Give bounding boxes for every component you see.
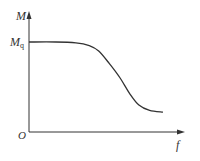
origin-label: O	[18, 130, 26, 141]
y-axis	[27, 11, 32, 132]
y-axis-label: M	[16, 10, 26, 22]
torque-frequency-curve	[29, 42, 163, 112]
mq-tick-label-sub: q	[20, 41, 24, 50]
x-axis	[29, 130, 185, 135]
y-axis-arrow-icon	[27, 11, 32, 19]
mq-tick-label-main: M	[10, 35, 20, 49]
mq-tick-label: Mq	[10, 36, 24, 50]
x-axis-arrow-icon	[177, 130, 185, 135]
x-axis-label: f	[176, 139, 179, 151]
chart	[0, 0, 200, 161]
